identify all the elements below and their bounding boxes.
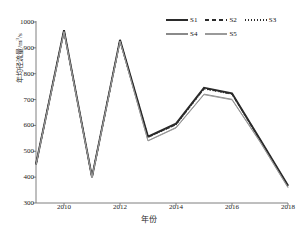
legend-swatch-S1-icon bbox=[166, 16, 188, 24]
legend-row: S1S2S3 bbox=[166, 13, 292, 27]
series-line-S1 bbox=[36, 30, 288, 185]
chart-legend: S1S2S3S4S5 bbox=[166, 13, 292, 41]
legend-item-S4: S4 bbox=[166, 30, 197, 38]
series-line-S2 bbox=[36, 31, 288, 186]
series-line-S4 bbox=[36, 32, 288, 188]
legend-label-S2: S2 bbox=[229, 16, 236, 24]
y-tick-label: 600 bbox=[10, 121, 34, 129]
legend-item-S5: S5 bbox=[205, 30, 236, 38]
legend-label-S1: S1 bbox=[190, 16, 197, 24]
y-axis-title: 年均径流量/m3/s bbox=[12, 8, 24, 108]
legend-swatch-S5-icon bbox=[205, 30, 227, 38]
legend-item-S2: S2 bbox=[205, 16, 236, 24]
legend-label-S4: S4 bbox=[190, 30, 197, 38]
x-tick-label: 2014 bbox=[161, 203, 191, 211]
legend-item-S3: S3 bbox=[245, 16, 276, 24]
x-tick-label: 2010 bbox=[49, 203, 79, 211]
legend-swatch-S4-icon bbox=[166, 30, 188, 38]
x-tick-label: 2012 bbox=[105, 203, 135, 211]
y-tick-label: 500 bbox=[10, 147, 34, 155]
legend-swatch-S3-icon bbox=[245, 16, 267, 24]
legend-label-S3: S3 bbox=[269, 16, 276, 24]
series-line-S3 bbox=[36, 31, 288, 186]
series-line-S5 bbox=[36, 32, 288, 188]
runoff-line-chart: 3004005006007008009001000 20102012201420… bbox=[0, 0, 297, 235]
x-tick-label: 2016 bbox=[217, 203, 247, 211]
legend-swatch-S2-icon bbox=[205, 16, 227, 24]
y-tick-label: 400 bbox=[10, 173, 34, 181]
legend-item-S1: S1 bbox=[166, 16, 197, 24]
legend-label-S5: S5 bbox=[229, 30, 236, 38]
x-axis-title: 年份 bbox=[0, 213, 297, 224]
legend-row: S4S5 bbox=[166, 27, 292, 41]
x-tick-label: 2018 bbox=[273, 203, 297, 211]
